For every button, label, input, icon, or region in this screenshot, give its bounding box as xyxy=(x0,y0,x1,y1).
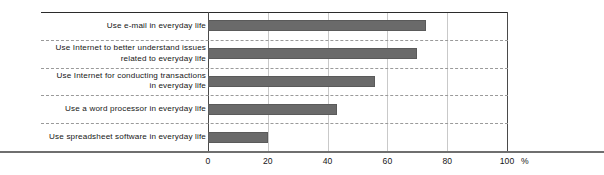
bar xyxy=(208,104,337,115)
bar xyxy=(208,48,417,59)
bar-row: Use Internet to better understand issues… xyxy=(0,40,604,68)
category-label: Use spreadsheet software in everyday lif… xyxy=(0,132,206,142)
bar xyxy=(208,132,268,143)
horizontal-bar-chart: Use e-mail in everyday lifeUse Internet … xyxy=(0,0,604,175)
value-axis-unit-label: % xyxy=(521,156,529,166)
category-label: Use a word processor in everyday life xyxy=(0,104,206,114)
bar xyxy=(208,20,426,31)
tick-label-80: 80 xyxy=(427,156,467,166)
tick-label-60: 60 xyxy=(367,156,407,166)
category-label: Use Internet to better understand issues… xyxy=(0,43,206,64)
bar xyxy=(208,76,375,87)
category-label: Use Internet for conducting transactions… xyxy=(0,71,206,92)
tick-label-0: 0 xyxy=(188,156,228,166)
bar-row: Use e-mail in everyday life xyxy=(0,12,604,40)
tick-label-20: 20 xyxy=(248,156,288,166)
bar-row: Use spreadsheet software in everyday lif… xyxy=(0,123,604,151)
bar-row: Use a word processor in everyday life xyxy=(0,95,604,123)
category-label: Use e-mail in everyday life xyxy=(0,21,206,31)
tick-label-40: 40 xyxy=(308,156,348,166)
bar-row: Use Internet for conducting transactions… xyxy=(0,68,604,96)
plot-area: Use e-mail in everyday lifeUse Internet … xyxy=(0,12,604,152)
